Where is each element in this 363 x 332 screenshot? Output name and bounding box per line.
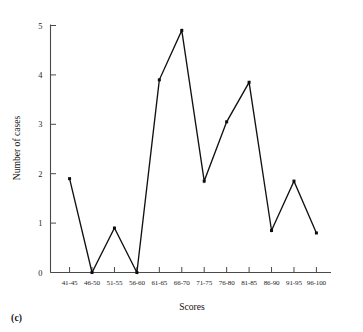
panel-caption: (c) xyxy=(11,312,22,323)
data-point-marker xyxy=(180,29,183,32)
series-line xyxy=(70,30,317,272)
y-axis xyxy=(51,25,57,273)
data-point-marker xyxy=(248,81,251,84)
data-point-marker xyxy=(315,231,318,234)
y-tick-label: 3 xyxy=(38,120,42,129)
x-tick-label: 51-55 xyxy=(107,279,123,287)
data-point-marker xyxy=(292,180,295,183)
x-axis-title: Scores xyxy=(179,301,205,312)
x-tick-label: 46-50 xyxy=(84,279,100,287)
x-tick-label: 66-70 xyxy=(174,279,190,287)
y-tick-label: 1 xyxy=(38,219,42,228)
y-tick-label: 0 xyxy=(38,269,42,278)
x-tick-label: 71-75 xyxy=(196,279,212,287)
data-point-marker xyxy=(68,177,71,180)
data-series xyxy=(68,29,318,274)
x-tick-label: 61-65 xyxy=(151,279,167,287)
data-point-marker xyxy=(158,78,161,81)
data-point-marker xyxy=(91,271,94,274)
data-point-marker xyxy=(225,120,228,123)
data-point-marker xyxy=(270,229,273,232)
x-tick-label: 86-90 xyxy=(264,279,280,287)
figure-panel-c: 012345 41-4546-5051-5556-6061-6566-7071-… xyxy=(0,0,363,332)
y-tick-label: 2 xyxy=(38,170,42,179)
data-point-marker xyxy=(113,227,116,230)
x-tick-label: 41-45 xyxy=(62,279,78,287)
y-tick-label: 5 xyxy=(38,22,42,31)
y-tick-label: 4 xyxy=(38,71,43,80)
y-axis-title: Number of cases xyxy=(11,116,22,181)
y-tick-labels: 012345 xyxy=(38,22,43,278)
x-tick-label: 96-100 xyxy=(307,279,327,287)
line-chart: 012345 41-4546-5051-5556-6061-6566-7071-… xyxy=(0,0,363,332)
x-tick-labels: 41-4546-5051-5556-6061-6566-7071-7576-80… xyxy=(62,279,327,287)
data-point-marker xyxy=(135,271,138,274)
x-tick-label: 56-60 xyxy=(129,279,145,287)
x-tick-label: 81-85 xyxy=(241,279,257,287)
data-point-marker xyxy=(203,180,206,183)
x-tick-label: 76-80 xyxy=(219,279,235,287)
x-tick-label: 91-95 xyxy=(286,279,302,287)
